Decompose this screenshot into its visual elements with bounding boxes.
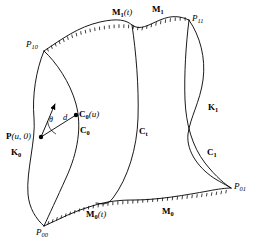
label-p11: P11 (192, 14, 203, 24)
point-p-u-0-marker (39, 135, 43, 139)
diagram-canvas (0, 0, 256, 243)
label-d: d (63, 113, 67, 122)
segment-d (41, 115, 76, 137)
label-k1: K1 (208, 103, 218, 113)
label-theta: θ (49, 116, 53, 124)
label-c0-u: C0(u) (79, 110, 99, 120)
coons-patch-figure: M1(t) M1 M0(t) M0 P10 P11 P00 P01 P(u, 0… (0, 0, 256, 243)
label-m1: M1 (152, 5, 164, 15)
curve-m0-ticks (48, 190, 226, 224)
curve-ct (96, 25, 138, 204)
curve-m0 (44, 188, 231, 226)
label-p00: P00 (36, 228, 48, 238)
curve-c0 (44, 51, 79, 226)
curve-m1 (44, 17, 189, 51)
label-k0: K0 (11, 148, 21, 158)
label-c0: C0 (80, 126, 90, 136)
label-ct: Ct (139, 127, 148, 137)
label-p-u-0: P(u, 0) (6, 132, 31, 141)
label-m0: M0 (162, 207, 174, 217)
label-m0-t: M0(t) (86, 210, 106, 220)
label-c1: C1 (207, 148, 217, 158)
label-p01: P01 (234, 182, 246, 192)
label-p10: P10 (26, 40, 38, 50)
curve-m1-ticks (47, 17, 185, 51)
point-c0-u-marker (74, 113, 78, 117)
label-m1-t: M1(t) (112, 8, 132, 18)
